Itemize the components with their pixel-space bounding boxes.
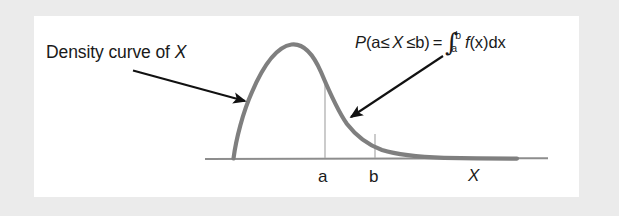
density-curve-plot — [0, 0, 619, 216]
density-curve-label: Density curve of X — [46, 44, 186, 62]
integral-group: ∫ b a — [445, 30, 461, 54]
figure-root: Density curve of X P(a ≤X≤ b)= ∫ b a f(x… — [0, 0, 619, 216]
density-curve-arrow — [133, 71, 245, 102]
density-curve-label-variable: X — [175, 42, 187, 62]
tick-label-b: b — [369, 168, 378, 185]
probability-formula: P(a ≤X≤ b)= ∫ b a f(x)dx — [355, 30, 506, 54]
integrand: f(x)dx — [465, 34, 506, 51]
integral-lower-limit: a — [451, 43, 457, 54]
formula-close-paren: b) — [415, 34, 429, 51]
formula-p-symbol: P — [355, 34, 366, 51]
integrand-argument: (x)dx — [469, 33, 505, 51]
formula-le-first: ≤ — [380, 34, 389, 51]
shaded-area-arrow — [351, 56, 443, 117]
formula-le-second: ≤ — [406, 34, 415, 51]
formula-open-paren: (a — [366, 34, 380, 51]
integral-upper-limit: b — [455, 30, 461, 41]
x-axis-label: X — [468, 167, 479, 184]
density-curve-label-text: Density curve of — [46, 42, 175, 62]
formula-equals: = — [433, 34, 443, 51]
tick-label-a: a — [318, 168, 327, 185]
formula-variable: X — [392, 34, 403, 51]
